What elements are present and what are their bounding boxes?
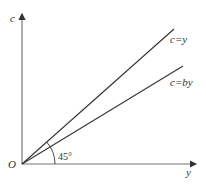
horizontal-axis-label: y [185,166,191,178]
origin-label: O [8,158,16,170]
line-label-c-equals-y: c=y [170,33,187,45]
vertical-axis-label: c [10,12,15,24]
line-c-equals-by [22,66,183,164]
diagram-canvas: c y O c=y c=by 45° [0,0,206,188]
angle-label: 45° [58,151,72,162]
line-c-equals-y [22,29,174,164]
line-label-c-equals-by: c=by [170,76,193,88]
